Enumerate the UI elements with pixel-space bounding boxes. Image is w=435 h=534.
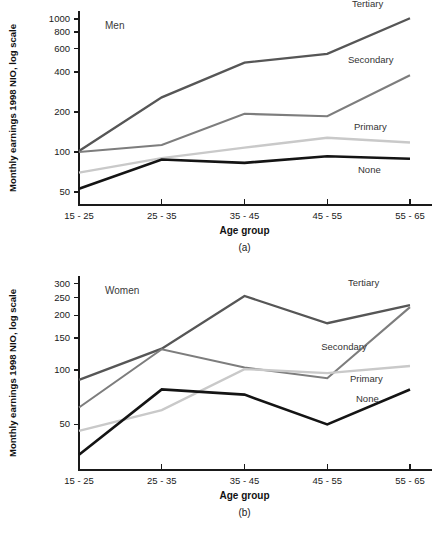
x-axis-tick-label: 35 - 45 [230, 475, 260, 486]
y-axis-tick-label: 50 [59, 418, 70, 429]
x-axis-title: Age group [220, 225, 270, 236]
series-label-primary: Primary [350, 373, 383, 384]
y-axis-tick-label: 100 [54, 364, 70, 375]
series-label-tertiary: Tertiary [352, 0, 383, 9]
chart-svg-men: 50100200400600800100015 - 2525 - 3535 - … [0, 0, 435, 262]
series-label-primary: Primary [354, 121, 387, 132]
series-label-none: None [356, 393, 379, 404]
panel-caption: (b) [238, 507, 250, 518]
chart-axes [79, 11, 432, 205]
chart-panel-men: 50100200400600800100015 - 2525 - 3535 - … [0, 0, 435, 262]
chart-panel-women: 5010015020025030015 - 2525 - 3535 - 4545… [0, 262, 435, 534]
x-axis-title: Age group [220, 490, 270, 501]
x-axis-tick-label: 45 - 55 [312, 475, 342, 486]
y-axis-tick-label: 1000 [49, 13, 70, 24]
panel-group-label: Women [105, 285, 139, 296]
series-label-secondary: Secondary [321, 341, 367, 352]
x-axis-tick-label: 35 - 45 [230, 210, 260, 221]
y-axis-tick-label: 400 [54, 66, 70, 77]
y-axis-tick-label: 200 [54, 309, 70, 320]
y-axis-tick-label: 600 [54, 43, 70, 54]
y-axis-tick-label: 100 [54, 146, 70, 157]
series-label-none: None [358, 164, 381, 175]
y-axis-title: Monthly earnings 1998 NIO, log scale [7, 289, 18, 457]
figure-earnings-by-age-and-education: 50100200400600800100015 - 2525 - 3535 - … [0, 0, 435, 534]
x-axis-tick-label: 15 - 25 [64, 475, 94, 486]
y-axis-tick-label: 200 [54, 106, 70, 117]
series-label-tertiary: Tertiary [348, 277, 379, 288]
x-axis-tick-label: 55 - 65 [395, 475, 425, 486]
x-axis-tick-label: 15 - 25 [64, 210, 94, 221]
series-label-secondary: Secondary [348, 54, 394, 65]
y-axis-title: Monthly earnings 1998 NIO, log scale [7, 24, 18, 192]
y-axis-tick-label: 300 [54, 278, 70, 289]
x-axis-tick-label: 45 - 55 [312, 210, 342, 221]
y-axis-tick-label: 150 [54, 332, 70, 343]
panel-group-label: Men [105, 20, 124, 31]
y-axis-tick-label: 800 [54, 26, 70, 37]
x-axis-tick-label: 25 - 35 [147, 475, 177, 486]
x-axis-tick-label: 55 - 65 [395, 210, 425, 221]
panel-caption: (a) [238, 242, 250, 253]
y-axis-tick-label: 50 [59, 186, 70, 197]
y-axis-tick-label: 250 [54, 292, 70, 303]
chart-svg-women: 5010015020025030015 - 2525 - 3535 - 4545… [0, 262, 435, 534]
x-axis-tick-label: 25 - 35 [147, 210, 177, 221]
